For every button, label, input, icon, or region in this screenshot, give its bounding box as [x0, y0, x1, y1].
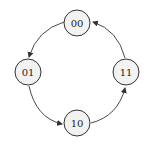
- node-00: 00: [64, 10, 90, 36]
- state-diagram: 00 01 10 11: [0, 0, 152, 147]
- node-11: 11: [113, 59, 139, 85]
- edge-11-to-00: [93, 22, 125, 58]
- node-label: 00: [71, 18, 84, 29]
- edge-01-to-10: [29, 86, 62, 124]
- node-01: 01: [15, 59, 41, 85]
- node-10: 10: [64, 110, 90, 136]
- node-label: 10: [71, 118, 84, 129]
- node-label: 01: [22, 67, 35, 78]
- node-label: 11: [120, 67, 133, 78]
- edge-10-to-11: [91, 88, 125, 123]
- edge-00-to-01: [29, 22, 64, 57]
